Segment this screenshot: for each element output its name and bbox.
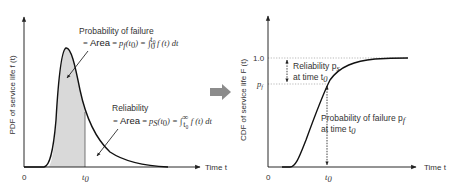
pdf-t0-label: t0 xyxy=(82,172,89,184)
cdf-y-axis-label: CDF of service life F (t) xyxy=(239,59,248,142)
cdf-y-tick-pf: pf xyxy=(256,79,264,90)
reliability-diagram: PDF of service life f (t) Time t 0 t0 Pr… xyxy=(0,0,456,185)
cdf-failure-note-line2: at time t0 xyxy=(321,124,356,136)
failure-annotation: Probability of failure = Area = pf(t0) =… xyxy=(67,26,179,78)
cdf-t0-label: t0 xyxy=(325,172,332,184)
reliability-title: Reliability xyxy=(112,103,149,113)
pdf-chart: PDF of service life f (t) Time t 0 t0 Pr… xyxy=(8,17,228,184)
failure-equation: = Area = pf(t0) = ∫t₀0 f (t) dt xyxy=(83,34,179,51)
transform-arrow-icon xyxy=(210,84,231,100)
cdf-origin-label: 0 xyxy=(266,173,271,182)
failure-area-shading xyxy=(48,48,85,167)
cdf-y-tick-1: 1.0 xyxy=(253,54,265,63)
failure-title: Probability of failure xyxy=(79,26,154,36)
reliability-annotation: Reliability = Area = pS(t0) = ∫∞t₀ f (t)… xyxy=(97,103,213,156)
pdf-y-axis-label: PDF of service life f (t) xyxy=(8,55,17,134)
reliability-pointer xyxy=(97,129,118,156)
pdf-origin-label: 0 xyxy=(22,173,27,182)
cdf-reliability-note-line2: at time t0 xyxy=(293,72,328,84)
reliability-equation: = Area = pS(t0) = ∫∞t₀ f (t) dt xyxy=(113,112,213,129)
cdf-chart: 1.0 pf CDF of service life F (t) Time t … xyxy=(239,16,447,184)
pdf-x-axis-label: Time t xyxy=(205,163,228,172)
cdf-x-axis-label: Time t xyxy=(424,163,447,172)
